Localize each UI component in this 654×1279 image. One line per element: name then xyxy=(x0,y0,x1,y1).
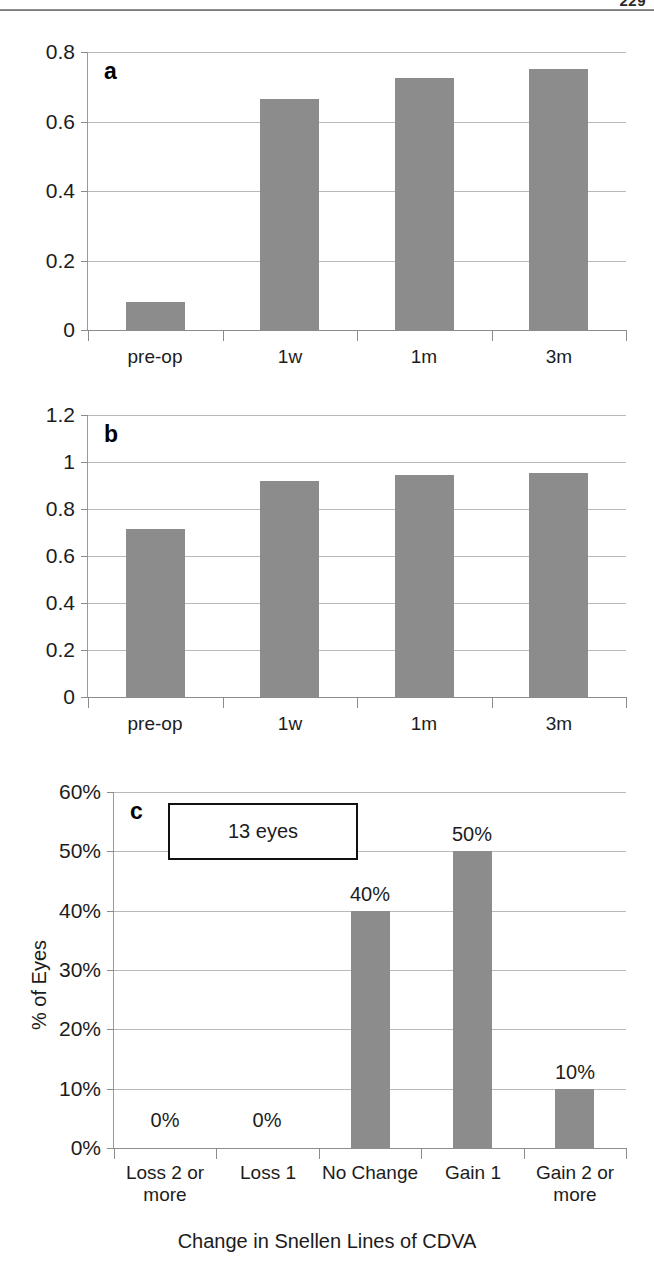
y-axis-tick xyxy=(81,650,88,651)
y-axis-tick xyxy=(81,415,88,416)
x-axis-tick xyxy=(626,330,627,341)
plot-area-b xyxy=(88,415,626,697)
panel-letter-c: c xyxy=(130,798,143,825)
y-axis-tick-label: 10% xyxy=(0,1078,101,1099)
bar-value-label: 0% xyxy=(114,1110,216,1130)
y-axis-tick xyxy=(81,462,88,463)
bar-value-label: 40% xyxy=(319,884,421,904)
plot-area-a xyxy=(88,52,626,330)
x-axis-tick xyxy=(421,1148,422,1159)
x-axis-tick-label: 3m xyxy=(458,713,654,735)
x-axis-tick xyxy=(223,330,224,341)
x-axis-tick xyxy=(492,697,493,708)
gridline xyxy=(88,462,626,463)
y-axis-tick xyxy=(81,52,88,53)
x-axis-line xyxy=(113,1148,626,1149)
x-axis-tick xyxy=(216,1148,217,1159)
bar xyxy=(453,851,492,1148)
y-axis-tick xyxy=(81,191,88,192)
annotation-box-13-eyes: 13 eyes xyxy=(168,803,358,860)
bar xyxy=(395,78,454,330)
x-axis-tick xyxy=(357,330,358,341)
y-axis-tick-label: 0 xyxy=(0,319,75,340)
x-axis-tick-label-line: Gain 2 or xyxy=(498,1162,652,1184)
x-axis-title: Change in Snellen Lines of CDVA xyxy=(0,1230,654,1253)
bar xyxy=(395,475,454,697)
bar xyxy=(260,481,319,697)
y-axis-tick xyxy=(81,122,88,123)
y-axis-tick-label: 0.6 xyxy=(0,545,75,566)
chart-panel-b: b 00.20.40.60.811.2pre-op1w1m3m xyxy=(0,380,654,770)
y-axis-tick-label: 0.8 xyxy=(0,498,75,519)
bar xyxy=(126,529,185,697)
bar xyxy=(529,69,588,330)
x-axis-tick xyxy=(88,330,89,341)
y-axis-tick-label: 0.4 xyxy=(0,592,75,613)
chart-panel-a: a 00.20.40.60.8pre-op1w1m3m xyxy=(0,0,654,380)
y-axis-tick xyxy=(107,792,114,793)
y-axis-tick-label: 0 xyxy=(0,686,75,707)
panel-letter-b: b xyxy=(104,421,118,448)
y-axis-tick-label: 20% xyxy=(0,1018,101,1039)
x-axis-tick-label-line: more xyxy=(88,1184,242,1206)
y-axis-tick xyxy=(107,851,114,852)
y-axis-tick xyxy=(81,509,88,510)
y-axis-tick-label: 50% xyxy=(0,840,101,861)
bar-value-label: 0% xyxy=(216,1110,318,1130)
bar xyxy=(126,302,185,330)
y-axis-tick xyxy=(107,1089,114,1090)
panel-letter-a: a xyxy=(104,58,117,85)
y-axis-tick xyxy=(107,970,114,971)
y-axis-tick-label: 1 xyxy=(0,451,75,472)
bar xyxy=(555,1089,594,1148)
y-axis-tick-label: 0.4 xyxy=(0,180,75,201)
x-axis-tick xyxy=(114,1148,115,1159)
y-axis-tick xyxy=(81,261,88,262)
x-axis-tick xyxy=(319,1148,320,1159)
gridline xyxy=(88,52,626,53)
y-axis-tick xyxy=(81,556,88,557)
chart-panel-c: c 13 eyes % of Eyes Change in Snellen Li… xyxy=(0,770,654,1279)
annotation-label: 13 eyes xyxy=(228,820,298,843)
gridline xyxy=(88,415,626,416)
x-axis-tick-label: 3m xyxy=(458,346,654,368)
y-axis-tick xyxy=(107,911,114,912)
y-axis-tick xyxy=(107,1029,114,1030)
bar-value-label: 50% xyxy=(421,824,523,844)
gridline xyxy=(114,792,626,793)
y-axis-tick-label: 1.2 xyxy=(0,404,75,425)
x-axis-tick xyxy=(88,697,89,708)
y-axis-tick-label: 60% xyxy=(0,781,101,802)
bar xyxy=(260,99,319,330)
y-axis-tick-label: 0% xyxy=(0,1137,101,1158)
y-axis-tick-label: 0.8 xyxy=(0,41,75,62)
y-axis-tick-label: 0.6 xyxy=(0,111,75,132)
y-axis-title: % of Eyes xyxy=(28,940,51,1030)
y-axis-tick-label: 0.2 xyxy=(0,639,75,660)
x-axis-tick xyxy=(626,697,627,708)
x-axis-tick xyxy=(492,330,493,341)
x-axis-tick xyxy=(626,1148,627,1159)
x-axis-tick-label-line: more xyxy=(498,1184,652,1206)
y-axis-tick-label: 0.2 xyxy=(0,250,75,271)
y-axis-tick-label: 30% xyxy=(0,959,101,980)
bar xyxy=(351,911,390,1148)
bar-value-label: 10% xyxy=(524,1062,626,1082)
y-axis-tick-label: 40% xyxy=(0,900,101,921)
x-axis-tick-label: Gain 2 ormore xyxy=(498,1162,652,1206)
bar xyxy=(529,473,588,697)
x-axis-tick xyxy=(223,697,224,708)
x-axis-tick xyxy=(357,697,358,708)
y-axis-tick xyxy=(81,603,88,604)
x-axis-tick xyxy=(524,1148,525,1159)
